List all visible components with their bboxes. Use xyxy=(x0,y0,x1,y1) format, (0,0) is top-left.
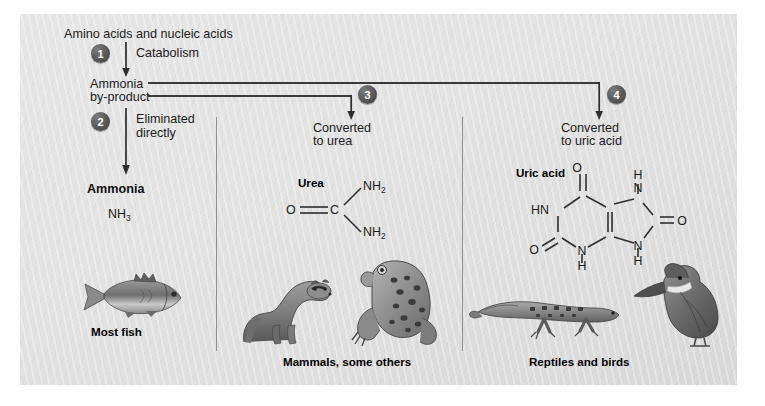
ammonia-formula-subscript: 3 xyxy=(126,213,131,223)
uric-acid-structure: O HN O N H N H N H O xyxy=(498,158,688,266)
step-badge-2: 2 xyxy=(91,112,110,131)
column-divider-2 xyxy=(462,117,463,351)
urea-structure: O C NH2 NH2 xyxy=(286,176,416,248)
branch-4-organisms-label: Reptiles and birds xyxy=(529,355,630,368)
uric-atom-hn: HN xyxy=(531,203,549,217)
ammonia-formula: NH3 xyxy=(108,207,131,223)
urea-atom-nh2-bottom: NH2 xyxy=(363,225,386,241)
branch-4-action-line-2: to uric acid xyxy=(561,134,622,149)
urea-atom-o: O xyxy=(286,203,296,217)
ammonia-formula-base: NH xyxy=(108,207,126,221)
fish-illustration xyxy=(78,272,190,318)
column-divider-1 xyxy=(216,117,217,351)
uric-atom-n7: N xyxy=(634,181,643,195)
uric-atom-n9: N xyxy=(634,239,643,253)
ferret-illustration xyxy=(242,270,338,346)
uric-atom-o-left: O xyxy=(529,243,539,257)
urea-atom-nh2-top: NH2 xyxy=(363,179,386,195)
frog-illustration xyxy=(352,258,452,348)
kingfisher-illustration xyxy=(634,262,726,348)
branch-2-product-name: Ammonia xyxy=(87,182,144,196)
uric-atom-n3: N xyxy=(578,244,587,258)
uric-atom-n7-h: H xyxy=(634,168,643,182)
branch-3-action-line-2: to urea xyxy=(313,134,352,149)
lizard-illustration xyxy=(476,288,624,344)
urea-atom-c: C xyxy=(330,203,339,217)
branch-2-action-line-1: Eliminated xyxy=(136,112,195,127)
uric-atom-o-top: O xyxy=(572,161,582,175)
step-badge-4: 4 xyxy=(607,85,626,104)
uric-atom-o-right: O xyxy=(677,214,687,228)
step-badge-3: 3 xyxy=(358,85,377,104)
uric-atom-n3-h: H xyxy=(578,259,587,273)
branch-3-organisms-label: Mammals, some others xyxy=(283,355,411,368)
branch-2-action-line-2: directly xyxy=(136,126,176,141)
figure-canvas: Amino acids and nucleic acids 1 Cataboli… xyxy=(0,0,765,406)
branch-2-organisms-label: Most fish xyxy=(91,325,142,338)
